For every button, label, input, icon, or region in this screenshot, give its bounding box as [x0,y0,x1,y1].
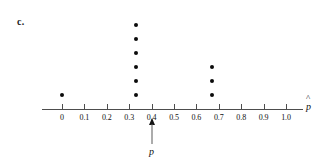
parameter-arrow-label: p [149,146,154,157]
x-axis-tick [62,104,63,110]
data-dot [134,51,138,55]
x-axis-tick-label: 0.3 [124,113,134,122]
data-dot [210,79,214,83]
data-dot [134,23,138,27]
x-axis-tick [241,104,242,110]
parameter-arrow-shaft [151,124,152,144]
x-axis-title: ^ p [306,96,324,112]
x-axis-tick-label: 0.1 [80,113,90,122]
data-dot [134,93,138,97]
data-dot [210,93,214,97]
x-axis-tick-label: 0.5 [169,113,179,122]
x-axis-tick-label: 1.0 [281,113,291,122]
x-axis-tick-label: 0.8 [236,113,246,122]
data-dot [134,65,138,69]
data-dot [134,79,138,83]
x-axis-tick [264,104,265,110]
x-axis-tick [84,104,85,110]
x-axis-tick [174,104,175,110]
x-axis-tick [129,104,130,110]
x-axis-tick-label: 0 [60,113,64,122]
data-dot [60,93,64,97]
x-axis-tick [286,104,287,110]
x-axis-tick [219,104,220,110]
x-axis-tick-label: 0.9 [259,113,269,122]
panel-label: c. [17,16,24,27]
x-axis-tick [196,104,197,110]
x-axis-tick-label: 0.2 [102,113,112,122]
dotplot-figure: c. 00.10.20.30.40.50.60.70.80.91.0 ^ p p [0,0,328,166]
x-axis-tick [152,104,153,110]
p-hat-symbol: p [306,101,324,112]
data-dot [210,65,214,69]
x-axis-tick-label: 0.6 [192,113,202,122]
data-dot [134,37,138,41]
x-axis-tick [107,104,108,110]
x-axis-tick-label: 0.7 [214,113,224,122]
